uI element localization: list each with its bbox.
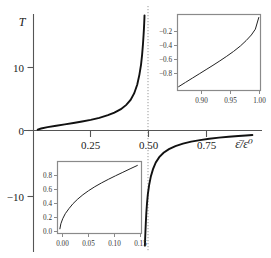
inset-tr-y-label-02: −0.2 [159, 28, 172, 36]
x-tick-label-050: 0.50 [139, 139, 159, 151]
inset-bl-y-label-02: 0.2 [43, 214, 52, 222]
inset-bl-y-label-06: 0.6 [43, 186, 52, 194]
inset-bl-x-label-005: 0.05 [82, 240, 95, 248]
inset-bl-y-label-08: 0.8 [43, 172, 52, 180]
y-tick-label-10: 10 [13, 62, 25, 74]
inset-tr-x-label-095: 0.95 [224, 97, 237, 105]
inset-bottom-left: 0.8 0.6 0.4 0.2 0.0 0.00 0.05 0.10 0.15 [43, 162, 147, 249]
inset-bl-y-label-00: 0.0 [43, 228, 52, 236]
y-tick-label-minus10: −10 [7, 191, 25, 203]
y-axis-label: T [19, 15, 27, 29]
inset-tr-y-label-04: −0.4 [159, 42, 172, 50]
inset-tr-y-label-08: −0.8 [159, 70, 172, 78]
inset-tr-y-label-06: −0.6 [159, 56, 172, 64]
x-tick-label-025: 0.25 [81, 139, 101, 151]
inset-bottom-left-frame [58, 162, 142, 234]
inset-tr-x-label-100: 1.00 [253, 97, 266, 105]
curve-left-branch [38, 15, 145, 129]
inset-top-right: −0.2 −0.4 −0.6 −0.8 0.90 0.95 1.00 [159, 15, 266, 106]
x-axis-label: ε̄/ε⁰ [235, 137, 253, 151]
inset-bl-x-label-010: 0.10 [108, 240, 121, 248]
inset-bl-x-label-000: 0.00 [56, 240, 69, 248]
chart-canvas: 0.25 0.50 0.75 10 0 −10 T ε̄/ε⁰ −0.2 −0.… [0, 0, 271, 258]
inset-bl-y-label-04: 0.4 [43, 200, 52, 208]
chart-figure: 0.25 0.50 0.75 10 0 −10 T ε̄/ε⁰ −0.2 −0.… [0, 0, 271, 258]
inset-bl-x-label-015: 0.15 [134, 240, 147, 248]
inset-tr-x-label-090: 0.90 [195, 97, 208, 105]
y-tick-label-0: 0 [19, 125, 25, 137]
curve-right-branch [145, 135, 252, 246]
